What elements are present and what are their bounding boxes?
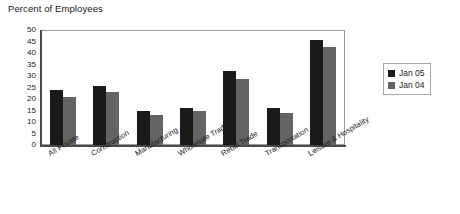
bar-series-1: [180, 108, 193, 145]
y-axis-ticks: 50454035302520151050: [14, 30, 36, 145]
bar-group: [41, 30, 84, 145]
y-axis-tick-label: 20: [27, 95, 36, 103]
bar-group: [302, 30, 345, 145]
bar-group: [128, 30, 171, 145]
y-axis-tick-label: 30: [27, 72, 36, 80]
y-axis-tick-label: 10: [27, 118, 36, 126]
y-axis-tick-label: 45: [27, 38, 36, 46]
bar-series-1: [223, 71, 236, 145]
bar-series-1: [93, 86, 106, 145]
bar-series-1: [310, 40, 323, 145]
bar-group: [171, 30, 214, 145]
y-axis-tick-label: 50: [27, 26, 36, 34]
y-axis-tick-label: 25: [27, 84, 36, 92]
bar-series-1: [267, 108, 280, 145]
bar-group: [258, 30, 301, 145]
bar-series-1: [137, 111, 150, 146]
legend-swatch-icon: [388, 70, 395, 77]
bar-series-2: [323, 47, 336, 145]
y-axis-tick-label: 15: [27, 107, 36, 115]
bar-group: [84, 30, 127, 145]
x-axis-category-labels: All PrivateConstructionManufacturingWhol…: [0, 145, 460, 214]
bar-chart: Percent of Employees 5045403530252015105…: [0, 0, 460, 214]
y-axis-tick-label: 5: [32, 130, 36, 138]
bar-series-1: [50, 90, 63, 145]
legend-label: Jan 04: [399, 81, 425, 90]
y-axis-tick-label: 40: [27, 49, 36, 57]
y-axis-tick-label: 35: [27, 61, 36, 69]
legend-swatch-icon: [388, 82, 395, 89]
chart-legend: Jan 05Jan 04: [383, 63, 431, 95]
legend-label: Jan 05: [399, 69, 425, 78]
legend-item: Jan 04: [388, 79, 425, 91]
chart-title: Percent of Employees: [8, 3, 103, 14]
legend-item: Jan 05: [388, 67, 425, 79]
